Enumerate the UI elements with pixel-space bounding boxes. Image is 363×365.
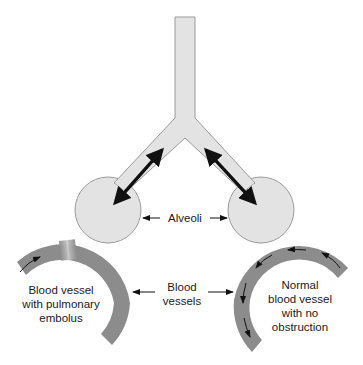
- blood-vessels-label-line1: Blood: [155, 280, 209, 294]
- right-vessel-label-line3: with no: [262, 306, 338, 320]
- right-vessel-label-line4: obstruction: [262, 320, 338, 334]
- left-vessel-label-line1: Blood vessel: [16, 283, 106, 297]
- left-vessel-label-line2: with pulmonary: [16, 297, 106, 311]
- alveoli-label: Alveoli: [163, 211, 207, 225]
- left-vessel-label-line3: embolus: [16, 311, 106, 325]
- left-vessel-label: Blood vessel with pulmonary embolus: [16, 283, 106, 325]
- airway: [112, 17, 257, 197]
- right-vessel-label-line2: blood vessel: [262, 292, 338, 306]
- right-vessel-label-line1: Normal: [262, 278, 338, 292]
- blood-vessels-label-line2: vessels: [155, 294, 209, 308]
- right-vessel-label: Normal blood vessel with no obstruction: [262, 278, 338, 334]
- blood-vessels-label: Blood vessels: [155, 280, 209, 308]
- diagram-canvas: Alveoli Blood vessels Blood vessel with …: [0, 0, 363, 365]
